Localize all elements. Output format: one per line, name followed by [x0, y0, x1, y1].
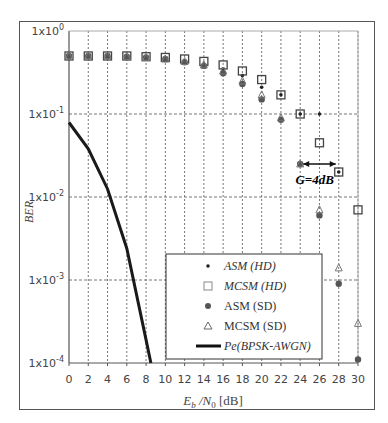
y-axis-label: BER	[22, 200, 36, 223]
y-tick-exponent: -4	[56, 355, 64, 364]
legend-label: MCSM (HD)	[223, 279, 286, 293]
asm-hd-marker	[279, 93, 283, 97]
xlabel-N: /N	[196, 393, 213, 408]
x-tick-label: 16	[216, 373, 230, 386]
y-tick-label: 1x10-1	[29, 106, 65, 121]
x-tick-label: 2	[85, 373, 92, 386]
arrow-head-right	[330, 161, 336, 167]
legend-label: ASM (SD)	[224, 299, 276, 313]
x-tick-label: 0	[66, 373, 73, 386]
asm-sd-marker	[336, 281, 342, 287]
asm-sd-marker	[355, 356, 361, 362]
legend-label: ASM (HD)	[223, 259, 276, 273]
asm-hd-marker	[298, 112, 302, 116]
x-tick-label: 14	[197, 373, 211, 386]
x-tick-label: 26	[312, 373, 326, 386]
bpsk-theory-curve	[69, 122, 151, 363]
legend-asm-hd-icon	[206, 264, 210, 268]
x-tick-label: 12	[178, 373, 192, 386]
x-axis-label: Eb /N0 [dB]	[182, 393, 243, 410]
asm-sd-marker	[258, 96, 264, 102]
ber-chart: G=4dB ASM (HD)MCSM (HD)ASM (SD)MCSM (SD)…	[0, 0, 388, 423]
y-tick-exponent: 0	[59, 23, 64, 32]
xlabel-E: E	[182, 393, 191, 408]
y-tick-exponent: -3	[56, 272, 64, 281]
x-tick-label: 18	[235, 373, 249, 386]
y-tick-label: 1x100	[31, 23, 64, 38]
gain-label: G=4dB	[295, 172, 334, 187]
x-tick-label: 20	[255, 373, 269, 386]
y-tick-label: 1x10-4	[29, 355, 65, 370]
y-tick-exponent: -2	[56, 189, 64, 198]
asm-hd-marker	[318, 112, 322, 116]
x-tick-label: 8	[143, 373, 150, 386]
x-tick-label: 30	[351, 373, 365, 386]
legend: ASM (HD)MCSM (HD)ASM (SD)MCSM (SD)Pe(BPS…	[166, 254, 322, 359]
y-tick-label: 1x10-3	[29, 272, 65, 287]
asm-hd-marker	[337, 170, 341, 174]
y-tick-exponent: -1	[56, 106, 64, 115]
legend-label: MCSM (SD)	[224, 319, 286, 333]
x-tick-label: 10	[158, 373, 172, 386]
xlabel-unit: [dB]	[216, 393, 243, 408]
x-tick-label: 4	[104, 373, 111, 386]
legend-label: Pe(BPSK-AWGN)	[223, 339, 311, 353]
asm-hd-marker	[260, 85, 264, 89]
legend-asm-sd-icon	[205, 303, 211, 309]
x-tick-label: 28	[332, 373, 346, 386]
x-tick-label: 6	[123, 373, 130, 386]
arrow-head-left	[303, 161, 309, 167]
x-tick-label: 22	[274, 373, 288, 386]
x-tick-label: 24	[293, 373, 307, 386]
